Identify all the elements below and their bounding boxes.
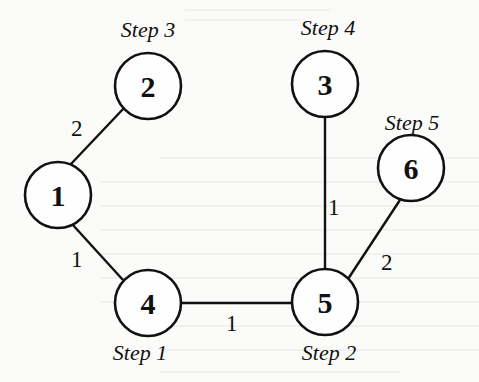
node-2-label: 2 [141,70,156,103]
node-5-label: 5 [318,286,333,319]
weight-1-4: 1 [71,247,83,272]
weight-4-5: 1 [226,311,238,336]
node-3: 3 [292,51,358,117]
node-3-label: 3 [318,68,333,101]
step-label-node-2: Step 3 [121,17,175,42]
graph-diagram: 2 1 1 1 2 1 2 3 4 5 6 Step 3 Step 4 Step… [0,0,479,382]
weight-3-5: 1 [328,195,340,220]
step-label-node-6: Step 5 [385,110,439,135]
weight-5-6: 2 [381,250,393,275]
node-5: 5 [292,269,358,335]
step-label-node-4: Step 1 [113,340,167,365]
node-6: 6 [378,135,444,201]
node-2: 2 [115,53,181,119]
weight-1-2: 2 [71,116,83,141]
step-label-node-3: Step 4 [301,15,355,40]
edges [70,107,400,303]
step-label-node-5: Step 2 [302,340,356,365]
node-1-label: 1 [51,179,66,212]
node-4: 4 [115,270,181,336]
node-4-label: 4 [141,287,156,320]
node-6-label: 6 [404,152,419,185]
node-1: 1 [25,162,91,228]
